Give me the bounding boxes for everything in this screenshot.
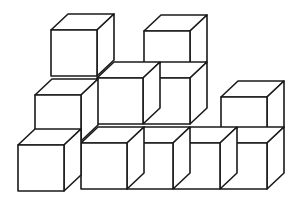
cube-front-face (81, 143, 127, 189)
cube-bottom-1 (81, 127, 144, 189)
cube-top-left (51, 14, 114, 76)
cube-diagram (0, 0, 301, 218)
cube-middle-center-1 (97, 62, 160, 124)
cube-front-face (18, 145, 64, 191)
stacked-cubes-figure (0, 0, 301, 218)
cube-front-face (51, 30, 97, 76)
cube-front-face (97, 78, 143, 124)
cube-bottom-left (18, 129, 81, 191)
